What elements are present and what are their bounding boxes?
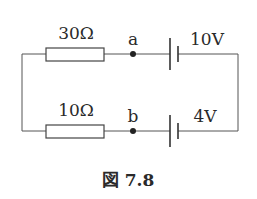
resistor-30-ohm	[46, 48, 104, 61]
node-a-dot	[130, 51, 136, 57]
resistor-label-bottom: 10Ω	[58, 100, 94, 120]
battery-label-bottom: 4V	[193, 106, 217, 126]
battery-label-top: 10V	[190, 29, 225, 49]
node-label-a: a	[128, 29, 138, 49]
resistor-label-top: 30Ω	[58, 23, 94, 43]
figure-caption: 図 7.8	[102, 170, 155, 190]
bottom-branch: 10Ω b 4V	[46, 100, 217, 147]
circuit-diagram: 30Ω a 10V 10Ω b 4V 図 7.8	[0, 0, 257, 199]
top-branch: 30Ω a 10V	[46, 23, 225, 70]
resistor-10-ohm	[46, 125, 104, 138]
node-b-dot	[130, 128, 136, 134]
node-label-b: b	[128, 106, 139, 126]
